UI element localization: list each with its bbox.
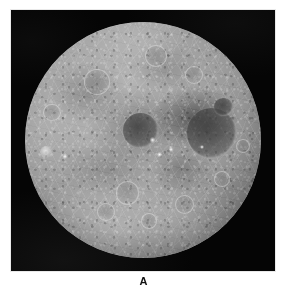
figure-panel: A (0, 0, 287, 299)
moon-limb-darkening (25, 22, 261, 258)
moon-disc-image (25, 22, 261, 258)
panel-label: A (0, 274, 287, 288)
sky-background-plate (11, 10, 275, 271)
